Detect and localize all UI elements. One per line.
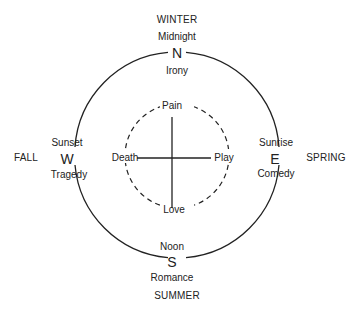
west-time: Sunset xyxy=(51,138,82,148)
season-fall: FALL xyxy=(14,153,38,163)
south-time: Noon xyxy=(160,242,184,252)
north-mode: Irony xyxy=(166,66,188,76)
east-letter: E xyxy=(270,152,279,166)
east-time: Sunrise xyxy=(259,138,293,148)
east-mode: Comedy xyxy=(257,169,294,179)
season-winter: WINTER xyxy=(157,15,198,25)
south-mode: Romance xyxy=(151,273,194,283)
inner-play: Play xyxy=(214,153,233,163)
season-summer: SUMMER xyxy=(154,291,200,301)
west-mode: Tragedy xyxy=(51,170,87,180)
north-time: Midnight xyxy=(158,32,196,42)
inner-death: Death xyxy=(112,153,139,163)
season-spring: SPRING xyxy=(306,153,346,163)
outer-circle xyxy=(75,52,279,257)
inner-love: Love xyxy=(163,205,185,215)
west-letter: W xyxy=(60,152,73,166)
north-letter: N xyxy=(172,46,182,60)
inner-pain: Pain xyxy=(162,101,182,111)
south-letter: S xyxy=(167,255,176,269)
